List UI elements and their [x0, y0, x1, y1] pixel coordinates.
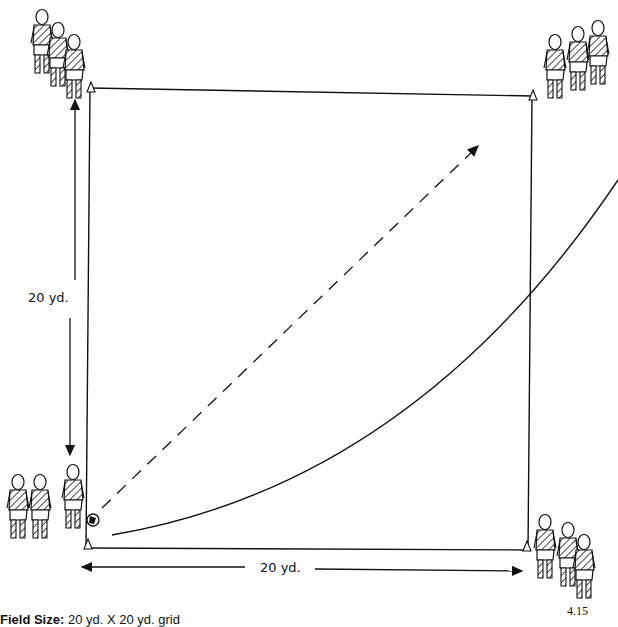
player-group-bottom-left	[7, 465, 99, 539]
cone-icon	[84, 539, 92, 549]
cone-icon	[529, 90, 537, 100]
cone-icon	[87, 82, 95, 92]
player-group-top-right	[544, 21, 609, 99]
caption-value: 20 yd. X 20 yd. grid	[68, 612, 180, 627]
cone-icon	[523, 541, 531, 551]
player-group-top-left	[31, 10, 85, 99]
pass-path-arrow	[102, 146, 478, 508]
drill-diagram	[0, 0, 618, 627]
caption-label: Field Size:	[0, 612, 64, 627]
height-label: 20 yd.	[24, 290, 73, 305]
height-dimension-arrow	[70, 100, 75, 455]
field-boundary	[86, 88, 532, 550]
width-label: 20 yd.	[256, 560, 305, 575]
run-path-curve	[112, 180, 618, 535]
field-size-caption: Field Size: 20 yd. X 20 yd. grid	[0, 612, 180, 627]
player-group-bottom-right	[534, 515, 595, 599]
figure-number: 4.15	[567, 604, 588, 619]
